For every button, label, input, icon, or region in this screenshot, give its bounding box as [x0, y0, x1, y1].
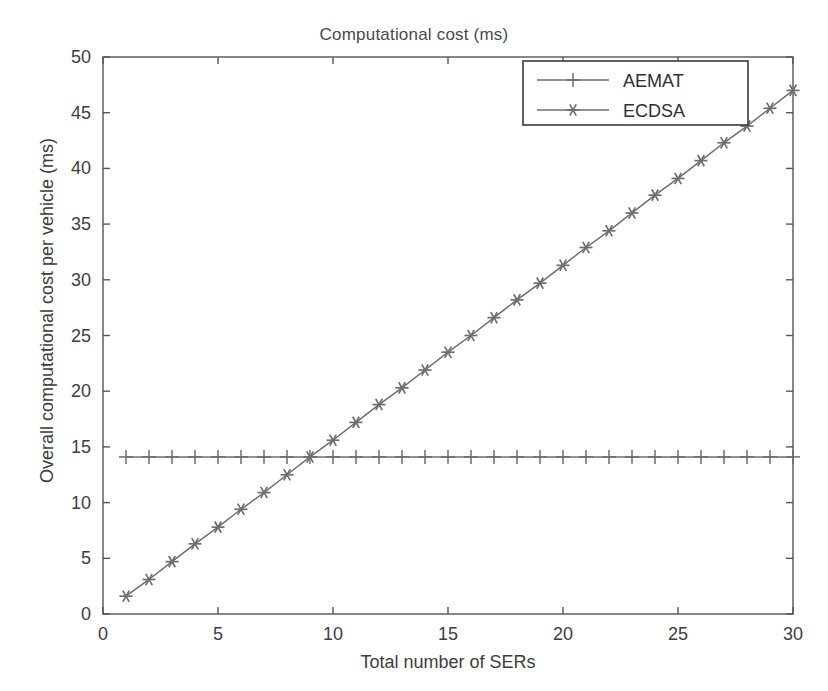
x-tick-label: 15 — [438, 624, 458, 644]
legend-label-aemat: AEMAT — [623, 71, 684, 91]
plot-area: 05101520253035404550 051015202530 AEMATE… — [0, 0, 828, 691]
series-ecdsa — [120, 85, 800, 602]
y-tick-label: 15 — [71, 437, 91, 457]
x-tick-label: 20 — [553, 624, 573, 644]
y-tick-label: 5 — [81, 548, 91, 568]
chart-figure: Computational cost (ms) Overall computat… — [0, 0, 828, 691]
x-tick-label: 30 — [783, 624, 803, 644]
series-aemat — [119, 450, 800, 464]
y-tick-label: 0 — [81, 604, 91, 624]
y-tick-label: 10 — [71, 493, 91, 513]
y-tick-label: 45 — [71, 103, 91, 123]
y-tick-label: 50 — [71, 47, 91, 67]
x-tick-label: 25 — [668, 624, 688, 644]
y-tick-label: 35 — [71, 214, 91, 234]
chart-legend: AEMATECDSA — [523, 61, 748, 125]
y-tick-label: 25 — [71, 326, 91, 346]
data-series-layer — [119, 85, 800, 602]
x-tick-label: 5 — [213, 624, 223, 644]
y-tick-label: 20 — [71, 381, 91, 401]
y-tick-label: 40 — [71, 158, 91, 178]
x-tick-label: 10 — [323, 624, 343, 644]
x-tick-label: 0 — [98, 624, 108, 644]
y-axis-ticks: 05101520253035404550 — [71, 47, 793, 624]
legend-label-ecdsa: ECDSA — [623, 101, 685, 121]
axis-frame — [103, 57, 793, 614]
y-tick-label: 30 — [71, 270, 91, 290]
